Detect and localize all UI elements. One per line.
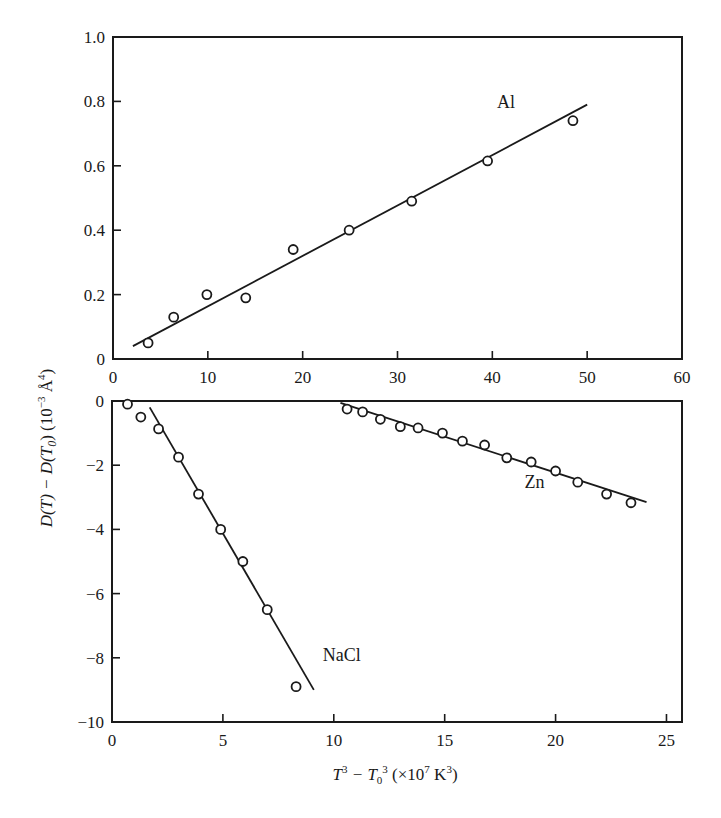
top-panel-al: 010203040506000.20.40.60.81.0Al	[84, 28, 691, 387]
x-tick-label: 0	[108, 731, 117, 750]
data-point	[169, 313, 178, 322]
data-point	[343, 405, 352, 414]
data-point	[358, 407, 367, 416]
x-tick-label: 15	[436, 731, 453, 750]
plot-frame	[112, 401, 682, 722]
x-tick-label: 60	[674, 368, 691, 387]
x-tick-label: 5	[219, 731, 228, 750]
data-point	[123, 400, 132, 409]
data-point	[216, 525, 225, 534]
y-tick-label: −8	[86, 649, 104, 668]
y-tick-label: −10	[77, 713, 104, 732]
y-tick-label: 0.2	[84, 286, 105, 305]
x-tick-label: 50	[579, 368, 596, 387]
series-nacl: NaCl	[123, 400, 361, 691]
data-point	[568, 116, 577, 125]
y-tick-label: 0	[97, 350, 106, 369]
figure: 010203040506000.20.40.60.81.0Al 05101520…	[0, 0, 721, 818]
data-point	[202, 290, 211, 299]
fit-line	[150, 407, 314, 689]
data-point	[345, 226, 354, 235]
x-tick-label: 30	[389, 368, 406, 387]
y-tick-label: 1.0	[84, 28, 105, 47]
y-tick-label: 0	[96, 392, 105, 411]
data-point	[438, 429, 447, 438]
y-tick-label: −4	[86, 520, 105, 539]
x-tick-label: 25	[658, 731, 675, 750]
series-al: Al	[133, 92, 587, 348]
series-label: Al	[497, 92, 515, 112]
data-point	[174, 453, 183, 462]
data-point	[527, 457, 536, 466]
fit-line	[133, 105, 587, 347]
x-tick-label: 20	[294, 368, 311, 387]
data-point	[263, 605, 272, 614]
data-point	[292, 682, 301, 691]
data-point	[626, 498, 635, 507]
bottom-panel-nacl-zn: 05101520250−2−4−6−8−10NaClZn	[77, 392, 682, 750]
y-tick-label: 0.4	[84, 221, 106, 240]
fit-line	[340, 403, 646, 502]
series-label: NaCl	[323, 645, 361, 665]
data-point	[602, 490, 611, 499]
x-axis-title: T3 − T03 (×107 K3)	[332, 763, 457, 786]
y-tick-label: −6	[86, 585, 104, 604]
data-point	[458, 437, 467, 446]
data-point	[573, 478, 582, 487]
data-point	[502, 453, 511, 462]
y-tick-label: 0.8	[84, 92, 105, 111]
series-zn: Zn	[340, 403, 646, 507]
data-point	[289, 245, 298, 254]
data-point	[396, 422, 405, 431]
data-point	[136, 413, 145, 422]
x-tick-label: 40	[484, 368, 501, 387]
data-point	[376, 415, 385, 424]
y-tick-label: 0.6	[84, 157, 105, 176]
data-point	[154, 424, 163, 433]
data-point	[480, 440, 489, 449]
x-tick-label: 20	[547, 731, 564, 750]
data-point	[551, 466, 560, 475]
data-point	[144, 338, 153, 347]
y-axis-title: D(T) − D(T0) (10−3 Å4)	[35, 369, 59, 528]
data-point	[407, 197, 416, 206]
data-point	[483, 156, 492, 165]
x-tick-label: 10	[199, 368, 216, 387]
x-tick-label: 0	[109, 368, 118, 387]
series-label: Zn	[525, 472, 545, 492]
data-point	[241, 293, 250, 302]
x-tick-label: 10	[325, 731, 342, 750]
data-point	[238, 557, 247, 566]
y-tick-label: −2	[86, 456, 104, 475]
data-point	[414, 423, 423, 432]
data-point	[194, 490, 203, 499]
